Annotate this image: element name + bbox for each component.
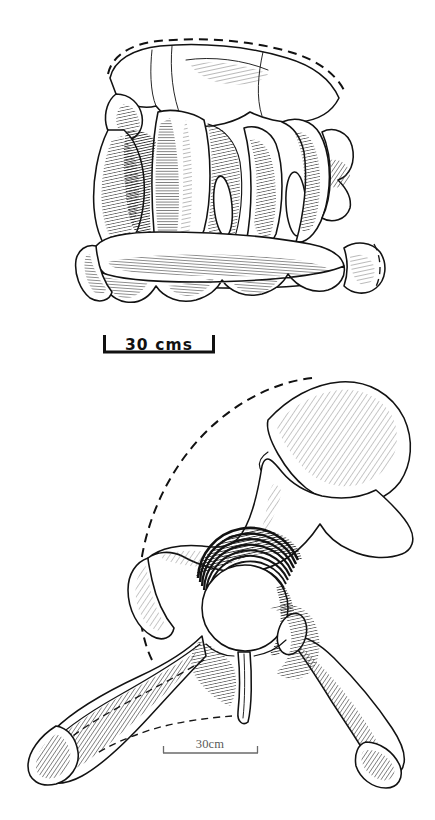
scalebar-lower-label: 30cm xyxy=(196,737,225,751)
illustration-plate: 30 cms xyxy=(0,0,435,820)
figure-lower-pelvis: 30cm xyxy=(0,0,435,820)
scalebar-lower: 30cm xyxy=(163,737,258,753)
